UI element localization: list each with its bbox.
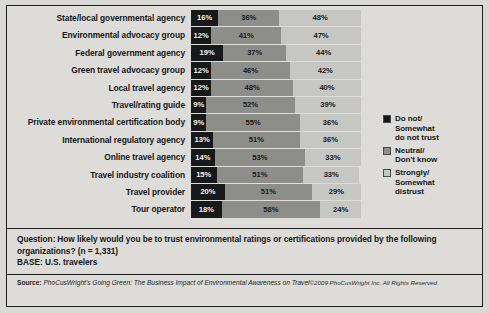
bar-segment: 15%: [191, 167, 217, 183]
bar-segment: 36%: [300, 132, 361, 148]
legend-label: Do not/Somewhatdo not trust: [395, 114, 439, 143]
figure-container: State/local governmental agency16%36%48%…: [0, 0, 489, 313]
stacked-bar: 12%48%40%: [191, 80, 361, 96]
category-label: Green travel advocacy group: [7, 66, 191, 74]
legend-label: Strongly/Somewhatdistrust: [395, 168, 435, 197]
chart-row: Local travel agency12%48%40%: [7, 80, 482, 96]
chart-row: Federal government agency19%37%44%: [7, 45, 482, 61]
bar-segment: 42%: [290, 62, 361, 78]
bar-segment: 14%: [191, 149, 215, 165]
category-label: Travel industry coalition: [7, 171, 191, 179]
bar-segment: 13%: [191, 132, 213, 148]
bar-segment: 48%: [279, 10, 361, 26]
legend-item: Strongly/Somewhatdistrust: [383, 168, 483, 197]
bar-segment: 33%: [303, 167, 359, 183]
source-note: Source: PhoCusWright's Going Green: The …: [17, 279, 310, 286]
bar-segment: 47%: [281, 27, 361, 43]
bar-segment: 20%: [191, 184, 225, 200]
legend-swatch-icon: [383, 115, 391, 123]
bar-segment: 33%: [305, 149, 361, 165]
source-label: Source:: [17, 279, 42, 286]
category-label: Local travel agency: [7, 84, 191, 92]
bar-segment: 16%: [191, 10, 218, 26]
bar-segment: 51%: [225, 184, 312, 200]
bar-segment: 24%: [320, 201, 361, 217]
bar-segment: 51%: [213, 132, 300, 148]
category-label: Federal government agency: [7, 49, 191, 57]
chart-row: Tour operator18%58%24%: [7, 201, 482, 217]
stacked-bar: 18%58%24%: [191, 201, 361, 217]
legend-swatch-icon: [383, 147, 391, 155]
stacked-bar: 9%55%36%: [191, 114, 361, 130]
bar-segment: 53%: [215, 149, 305, 165]
bar-segment: 55%: [206, 114, 300, 130]
bar-segment: 12%: [191, 62, 211, 78]
chart-row: Environmental advocacy group12%41%47%: [7, 27, 482, 43]
stacked-bar: 16%36%48%: [191, 10, 361, 26]
category-label: Private environmental certification body: [7, 118, 191, 126]
question-block: Question:How likely would you be to trus…: [17, 234, 474, 269]
bar-segment: 44%: [286, 45, 361, 61]
bar-segment: 46%: [211, 62, 289, 78]
category-label: State/local governmental agency: [7, 14, 191, 22]
legend-swatch-icon: [383, 169, 391, 177]
category-label: Travel provider: [7, 188, 191, 196]
bar-segment: 58%: [222, 201, 321, 217]
chart-row: Travel/rating guide9%52%39%: [7, 97, 482, 113]
bar-segment: 37%: [223, 45, 286, 61]
category-label: Online travel agency: [7, 153, 191, 161]
legend-item: Neutral/Don't know: [383, 146, 483, 165]
legend-item: Do not/Somewhatdo not trust: [383, 114, 483, 143]
bar-segment: 9%: [191, 114, 206, 130]
divider-above-source: [7, 274, 482, 275]
bar-segment: 48%: [211, 80, 293, 96]
bar-segment: 52%: [206, 97, 294, 113]
bar-segment: 39%: [295, 97, 361, 113]
bar-segment: 40%: [293, 80, 361, 96]
chart-legend: Do not/Somewhatdo not trustNeutral/Don't…: [383, 114, 483, 200]
category-label: Travel/rating guide: [7, 101, 191, 109]
bar-segment: 36%: [218, 10, 279, 26]
bar-segment: 51%: [217, 167, 304, 183]
stacked-bar: 9%52%39%: [191, 97, 361, 113]
bar-segment: 29%: [312, 184, 361, 200]
source-row: Source: PhoCusWright's Going Green: The …: [17, 279, 474, 286]
bar-segment: 18%: [191, 201, 222, 217]
bar-segment: 12%: [191, 80, 211, 96]
bar-segment: 19%: [191, 45, 223, 61]
chart-frame: State/local governmental agency16%36%48%…: [6, 5, 483, 307]
source-body: PhoCusWright's Going Green: The Business…: [43, 279, 309, 286]
divider-above-question: [7, 228, 482, 229]
stacked-bar: 19%37%44%: [191, 45, 361, 61]
chart-row: Green travel advocacy group12%46%42%: [7, 62, 482, 78]
category-label: Environmental advocacy group: [7, 31, 191, 39]
stacked-bar: 13%51%36%: [191, 132, 361, 148]
bar-segment: 9%: [191, 97, 206, 113]
stacked-bar: 14%53%33%: [191, 149, 361, 165]
category-label: International regulatory agency: [7, 136, 191, 144]
question-label: Question:: [17, 234, 55, 244]
bar-segment: 12%: [191, 27, 211, 43]
bar-segment: 41%: [211, 27, 281, 43]
legend-label: Neutral/Don't know: [395, 146, 437, 165]
copyright-notice: ©2009 PhoCusWright Inc. All Rights Reser…: [310, 279, 477, 286]
stacked-bar: 12%41%47%: [191, 27, 361, 43]
stacked-bar: 15%51%33%: [191, 167, 361, 183]
base-line: BASE: U.S. travelers: [17, 257, 474, 269]
category-label: Tour operator: [7, 205, 191, 213]
stacked-bar: 12%46%42%: [191, 62, 361, 78]
bar-segment: 36%: [300, 114, 361, 130]
stacked-bar: 20%51%29%: [191, 184, 361, 200]
question-text: How likely would you be to trust environ…: [17, 234, 437, 256]
chart-row: State/local governmental agency16%36%48%: [7, 10, 482, 26]
